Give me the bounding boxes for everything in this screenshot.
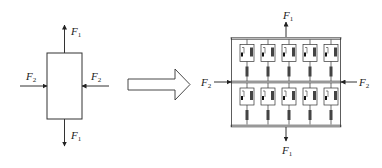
dashpot-piston [241,96,243,100]
series-spring-icon [267,110,270,120]
spring-icon [250,91,253,100]
f2-left-label: F2 [200,76,212,90]
viscoelastic-unit [303,83,317,125]
dashpot-piston [304,96,306,100]
f1-top-label: F1 [282,9,294,23]
series-spring-icon [288,67,291,77]
dashpot-piston [325,96,327,100]
spring-icon [313,48,316,57]
dashpot-piston [325,53,327,57]
left-element-diagram: F1 F1 F2 F2 [20,25,109,146]
middle-plate [231,81,341,83]
hollow-right-arrow-icon [128,69,190,100]
series-spring-icon [330,67,333,77]
f2-left-label: F2 [25,70,37,84]
viscoelastic-unit [324,40,338,82]
series-spring-icon [288,110,291,120]
right-model-diagram: F1 F1 F2 F2 [200,9,370,158]
viscoelastic-unit [240,40,254,82]
series-spring-icon [309,67,312,77]
diagram-canvas: F1 F1 F2 F2 F1 F1 F2 F2 [0,0,382,168]
spring-icon [271,48,274,57]
series-spring-icon [309,110,312,120]
f1-bottom-label: F1 [70,129,82,143]
f2-right-label: F2 [358,76,370,90]
f2-right-label: F2 [90,70,102,84]
dashpot-piston [241,53,243,57]
viscoelastic-unit [324,83,338,125]
series-spring-icon [246,67,249,77]
spring-icon [313,91,316,100]
spring-icon [271,91,274,100]
dashpot-piston [262,96,264,100]
viscoelastic-unit [240,83,254,125]
viscoelastic-unit [303,40,317,82]
element-block [47,53,82,119]
spring-icon [250,48,253,57]
viscoelastic-unit [261,83,275,125]
top-plate [231,38,341,40]
dashpot-piston [283,53,285,57]
series-spring-icon [330,110,333,120]
spring-icon [334,91,337,100]
series-spring-icon [246,110,249,120]
spring-icon [334,48,337,57]
viscoelastic-unit [282,40,296,82]
bottom-plate [231,125,341,127]
series-spring-icon [267,67,270,77]
viscoelastic-unit [261,40,275,82]
dashpot-piston [304,53,306,57]
spring-icon [292,48,295,57]
spring-icon [292,91,295,100]
dashpot-piston [262,53,264,57]
dashpot-piston [283,96,285,100]
f1-bottom-label: F1 [281,144,293,158]
f1-top-label: F1 [70,25,82,39]
viscoelastic-unit [282,83,296,125]
